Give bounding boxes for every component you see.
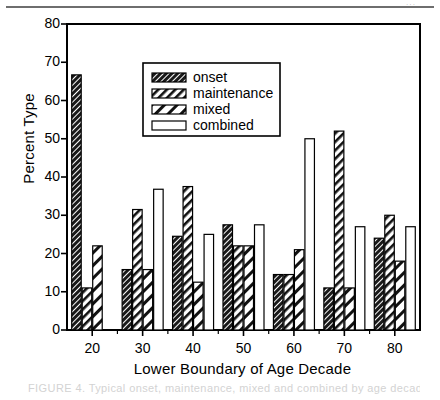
bar-onset-20 — [72, 75, 82, 330]
bar-maintenance-60 — [284, 275, 294, 330]
bar-onset-40 — [173, 236, 183, 330]
bar-combined-50 — [255, 225, 265, 330]
bar-mixed-40 — [194, 282, 204, 330]
y-tick-label: 40 — [20, 168, 60, 184]
legend-label-maintenance: maintenance — [193, 85, 273, 101]
bar-mixed-80 — [395, 261, 405, 330]
bar-mixed-60 — [294, 250, 304, 330]
legend-label-combined: combined — [193, 117, 254, 133]
bar-onset-30 — [122, 270, 131, 330]
x-tick-label: 30 — [123, 340, 163, 356]
bar-onset-80 — [374, 238, 384, 330]
bar-combined-80 — [406, 227, 416, 330]
bar-onset-70 — [324, 288, 334, 330]
bar-mixed-30 — [143, 270, 153, 330]
legend-swatch-mixed — [152, 105, 186, 114]
figure-container: ··· Percent Type Lower Bou — [0, 0, 440, 400]
y-tick-label: 20 — [20, 245, 60, 261]
y-tick-label: 60 — [20, 92, 60, 108]
legend-label-onset: onset — [193, 69, 227, 85]
bar-combined-40 — [204, 234, 214, 330]
x-axis-title: Lower Boundary of Age Decade — [60, 360, 425, 377]
bar-combined-30 — [154, 189, 164, 330]
legend-swatch-maintenance — [152, 89, 186, 98]
x-tick-label: 70 — [324, 340, 364, 356]
y-tick-label: 50 — [20, 130, 60, 146]
bar-maintenance-20 — [82, 288, 92, 330]
x-tick-label: 20 — [72, 340, 112, 356]
bar-mixed-70 — [345, 288, 355, 330]
bar-onset-50 — [223, 225, 233, 330]
legend-swatch-onset — [152, 73, 186, 82]
x-tick-label: 50 — [224, 340, 264, 356]
legend-swatch-combined — [152, 121, 186, 130]
bar-maintenance-80 — [385, 215, 395, 330]
legend-label-mixed: mixed — [193, 101, 230, 117]
bar-mixed-20 — [93, 246, 103, 330]
y-tick-label: 80 — [20, 15, 60, 31]
y-tick-label: 30 — [20, 206, 60, 222]
bar-mixed-50 — [244, 246, 254, 330]
figure-caption: FIGURE 4. Typical onset, maintenance, mi… — [28, 382, 420, 394]
bar-combined-60 — [305, 139, 315, 330]
bar-maintenance-70 — [334, 131, 344, 330]
bar-maintenance-40 — [183, 187, 193, 330]
y-tick-label: 10 — [20, 283, 60, 299]
bar-maintenance-30 — [133, 210, 143, 330]
bar-maintenance-50 — [234, 246, 244, 330]
x-tick-label: 60 — [274, 340, 314, 356]
x-tick-label: 40 — [173, 340, 213, 356]
y-tick-label: 70 — [20, 53, 60, 69]
x-tick-label: 80 — [375, 340, 415, 356]
y-tick-label: 0 — [20, 321, 60, 337]
bar-combined-70 — [355, 227, 365, 330]
bar-onset-60 — [273, 275, 283, 330]
